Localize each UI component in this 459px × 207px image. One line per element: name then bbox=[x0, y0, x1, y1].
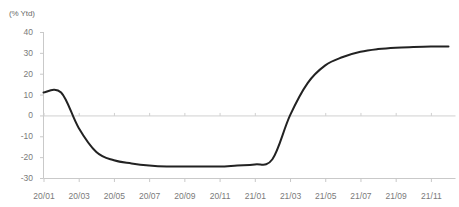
chart-container: (% Ytd) 403020100-10-20-30 20/0120/0320/… bbox=[0, 0, 459, 207]
x-axis bbox=[44, 178, 456, 182]
plot-area bbox=[0, 0, 459, 207]
series-path bbox=[44, 47, 449, 167]
zero-reference-line bbox=[44, 113, 456, 116]
data-series-line bbox=[44, 47, 449, 167]
y-axis bbox=[40, 32, 44, 179]
